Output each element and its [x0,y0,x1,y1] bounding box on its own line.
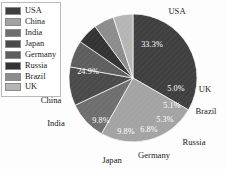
legend-swatch-icon [5,7,21,15]
legend-swatch-icon [5,29,21,37]
legend-item-label: Russia [25,61,47,71]
legend-item-label: Germany [25,50,56,60]
legend-swatch-icon [5,73,21,81]
pie-chart-figure: 33.3%24.9%9.8%9.8%6.8%5.3%5.1%5.0% USAUK… [0,0,226,169]
category-label-japan: Japan [102,155,122,165]
slice-percent-label: 6.8% [140,125,158,134]
slice-percent-label: 9.8% [117,127,135,136]
legend-item-label: China [25,17,45,27]
category-label-india: India [47,118,65,128]
legend-swatch-icon [5,18,21,26]
category-label-usa: USA [168,6,186,16]
category-label-germany: Germany [138,150,171,160]
slice-percent-label: 33.3% [141,40,163,49]
legend-item-japan[interactable]: Japan [5,39,58,50]
pie-slice-texture-overlay [69,14,197,142]
legend-item-label: Brazil [25,72,45,82]
legend-swatch-icon [5,40,21,48]
legend-item-uk[interactable]: UK [5,82,58,93]
legend-item-label: UK [25,82,37,92]
legend-item-usa[interactable]: USA [5,6,58,17]
category-label-brazil: Brazil [196,106,218,116]
legend-item-label: India [25,28,42,38]
legend-swatch-icon [5,83,21,91]
legend-item-germany[interactable]: Germany [5,50,58,61]
slice-percent-label: 24.9% [77,67,99,76]
category-label-russia: Russia [183,137,206,147]
legend-item-label: USA [25,6,42,16]
legend-item-india[interactable]: India [5,28,58,39]
legend-item-label: Japan [25,39,44,49]
slice-percent-label: 5.1% [163,101,181,110]
slice-percent-label: 5.0% [167,84,185,93]
slice-percent-label: 5.3% [156,115,174,124]
category-label-uk: UK [199,84,212,94]
legend-item-china[interactable]: China [5,17,58,28]
legend-item-brazil[interactable]: Brazil [5,71,58,82]
legend-item-russia[interactable]: Russia [5,60,58,71]
legend-swatch-icon [5,51,21,59]
legend-swatch-icon [5,62,21,70]
chart-legend: USAChinaIndiaJapanGermanyRussiaBrazilUK [1,2,61,97]
slice-percent-label: 9.8% [92,116,110,125]
